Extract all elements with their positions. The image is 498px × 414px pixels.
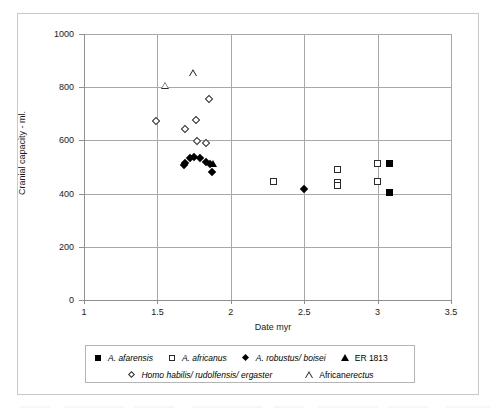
- gridline-vertical: [451, 34, 452, 300]
- data-point: [270, 178, 277, 185]
- y-axis-tick: [79, 194, 84, 195]
- chart-legend: A. afarensisA. africanusA. robustus/ boi…: [85, 345, 415, 383]
- gridline-vertical: [304, 34, 305, 300]
- triangle-filled-icon: [340, 353, 350, 362]
- y-axis-line: [84, 34, 85, 300]
- y-axis-tick: [79, 247, 84, 248]
- data-point: [374, 160, 381, 167]
- scan-artifact: [20, 404, 490, 410]
- data-point: [334, 166, 341, 173]
- gridline-horizontal: [84, 87, 451, 88]
- x-axis-tick: [231, 300, 232, 304]
- data-point: [189, 69, 197, 76]
- legend-row-1: A. afarensisA. africanusA. robustus/ boi…: [86, 349, 421, 366]
- legend-label-italic: Homo habilis/ rudolfensis/ ergaster: [141, 370, 272, 380]
- y-tick-label: 0: [69, 296, 74, 305]
- x-axis-title: Date myr: [0, 322, 498, 332]
- legend-entry[interactable]: A. robustus/ boisei: [241, 353, 326, 363]
- legend-entry[interactable]: A. afarensis: [93, 353, 153, 363]
- legend-entry[interactable]: African erectus: [304, 370, 373, 380]
- y-tick-label-wrap: 1000: [0, 30, 74, 39]
- gridline-horizontal: [84, 34, 451, 35]
- data-point: [386, 189, 393, 196]
- x-tick-label: 2.5: [284, 308, 324, 317]
- x-axis-tick: [304, 300, 305, 304]
- x-axis-tick: [378, 300, 379, 304]
- data-point: [374, 178, 381, 185]
- y-tick-label-wrap: 400: [0, 190, 74, 199]
- y-tick-label-wrap: 600: [0, 136, 74, 145]
- x-axis-line: [84, 300, 451, 301]
- y-tick-label-wrap: 200: [0, 243, 74, 252]
- legend-label-italic: erectus: [346, 370, 374, 380]
- triangle-open-icon: [304, 370, 314, 379]
- y-axis-title: Cranial capacity - ml.: [17, 63, 27, 243]
- y-axis-tick: [79, 87, 84, 88]
- plot-area: [84, 34, 451, 300]
- diamond-open-icon: [126, 370, 136, 379]
- x-tick-label: 1.5: [137, 308, 177, 317]
- legend-entry[interactable]: Homo habilis/ rudolfensis/ ergaster: [126, 370, 272, 380]
- chart-figure: 02004006008001000 11.522.533.5 Cranial c…: [0, 0, 498, 414]
- y-tick-label: 600: [59, 136, 74, 145]
- diamond-filled-icon: [241, 353, 251, 362]
- x-tick-label: 1: [64, 308, 104, 317]
- y-tick-label: 200: [59, 243, 74, 252]
- y-tick-label: 800: [59, 83, 74, 92]
- y-axis-tick: [79, 34, 84, 35]
- legend-label: African: [319, 370, 345, 380]
- gridline-horizontal: [84, 194, 451, 195]
- x-tick-label: 3.5: [431, 308, 471, 317]
- y-tick-label-wrap: 800: [0, 83, 74, 92]
- square-filled-icon: [93, 353, 103, 362]
- x-tick-label: 3: [358, 308, 398, 317]
- legend-label-italic: A. robustus/ boisei: [256, 353, 326, 363]
- y-tick-label: 1000: [54, 30, 74, 39]
- y-axis-tick: [79, 140, 84, 141]
- legend-label-italic: A. afarensis: [108, 353, 153, 363]
- legend-row-2: Homo habilis/ rudolfensis/ ergasterAfric…: [86, 366, 414, 383]
- x-axis-tick: [451, 300, 452, 304]
- legend-entry[interactable]: A. africanus: [167, 353, 227, 363]
- gridline-vertical: [231, 34, 232, 300]
- x-axis-tick: [157, 300, 158, 304]
- gridline-horizontal: [84, 140, 451, 141]
- legend-label-italic: A. africanus: [182, 353, 227, 363]
- x-tick-label: 2: [211, 308, 251, 317]
- data-point: [386, 160, 393, 167]
- data-point: [334, 182, 341, 189]
- data-point: [161, 82, 169, 89]
- gridline-horizontal: [84, 247, 451, 248]
- square-open-icon: [167, 353, 177, 362]
- gridline-vertical: [157, 34, 158, 300]
- data-point: [209, 160, 217, 167]
- y-tick-label: 400: [59, 190, 74, 199]
- x-axis-title-text: Date myr: [255, 322, 292, 332]
- legend-entry[interactable]: ER 1813: [340, 353, 388, 363]
- x-axis-tick: [84, 300, 85, 304]
- y-tick-label-wrap: 0: [0, 296, 74, 305]
- legend-label: ER 1813: [355, 353, 388, 363]
